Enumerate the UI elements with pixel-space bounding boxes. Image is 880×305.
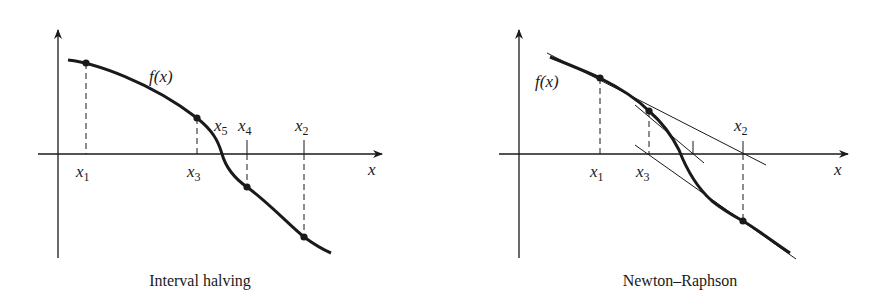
label-x1: x1 [589,162,604,184]
point-x1 [596,74,603,81]
label-x2: x2 [294,116,309,138]
function-label: f(x) [535,72,559,91]
label-x3: x3 [635,162,650,184]
x-axis-label: x [367,160,376,179]
label-x2: x2 [733,116,748,138]
interval-halving-panel: f(x) x1 x3 x5 x4 x2 x Interval halving [38,30,382,290]
panel-caption: Newton–Raphson [623,272,738,290]
label-x4: x4 [237,116,252,138]
newton-raphson-panel: f(x) x1 x3 x2 x Newton–Raphson [499,30,848,290]
label-x3: x3 [186,162,201,184]
point-x3 [645,107,652,114]
panel-caption: Interval halving [149,272,251,290]
label-x1: x1 [75,162,90,184]
function-label: f(x) [149,67,173,86]
point-x2 [739,217,746,224]
point-x3 [193,114,200,121]
point-x4 [243,183,250,190]
point-x1 [82,59,89,66]
label-x5: x5 [213,116,228,138]
point-x2 [300,233,307,240]
function-curve [550,57,790,253]
function-curve [68,60,331,253]
x-axis-label: x [833,160,842,179]
figure-canvas: f(x) x1 x3 x5 x4 x2 x Interval halving f… [0,0,880,305]
